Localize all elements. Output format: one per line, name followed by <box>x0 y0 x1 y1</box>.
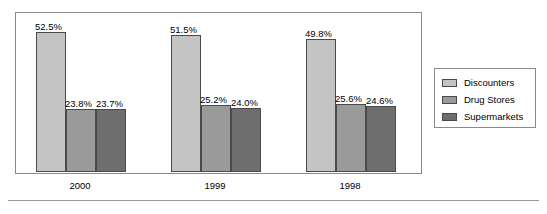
legend-item-label: Drug Stores <box>464 95 515 105</box>
x-axis-label-2000: 2000 <box>35 181 125 191</box>
x-axis-label-1999: 1999 <box>170 181 260 191</box>
bar-value-label: 25.2% <box>200 95 227 105</box>
legend-item-drug-stores[interactable]: Drug Stores <box>442 92 535 108</box>
bar-value-label: 49.8% <box>305 29 332 39</box>
chart-plot-frame: 52.5% 23.8% 23.7% 51.5% 25.2% 24.0% <box>15 12 422 174</box>
legend-item-label: Supermarkets <box>464 112 523 122</box>
bar-value-label: 52.5% <box>35 22 62 32</box>
bar-group-1999: 51.5% 25.2% 24.0% <box>171 13 261 172</box>
bar-value-label: 24.0% <box>231 98 258 108</box>
bar-discounters-1998[interactable]: 49.8% <box>306 39 336 172</box>
bar-discounters-2000[interactable]: 52.5% <box>36 32 66 172</box>
bar-drug-stores-1998[interactable]: 25.6% <box>336 104 366 172</box>
bar-group-1998: 49.8% 25.6% 24.6% <box>306 13 396 172</box>
bar-value-label: 24.6% <box>366 96 393 106</box>
bar-drug-stores-1999[interactable]: 25.2% <box>201 105 231 172</box>
chart-legend: Discounters Drug Stores Supermarkets <box>434 68 536 128</box>
bar-discounters-1999[interactable]: 51.5% <box>171 35 201 172</box>
plot-area: 52.5% 23.8% 23.7% 51.5% 25.2% 24.0% <box>16 13 421 173</box>
x-axis-label-1998: 1998 <box>305 181 395 191</box>
bar-supermarkets-1998[interactable]: 24.6% <box>366 106 396 172</box>
legend-item-label: Discounters <box>464 78 514 88</box>
legend-swatch-icon <box>442 113 457 121</box>
bar-value-label: 23.7% <box>96 99 123 109</box>
legend-item-supermarkets[interactable]: Supermarkets <box>442 109 535 125</box>
bar-value-label: 25.6% <box>335 94 362 104</box>
bar-supermarkets-1999[interactable]: 24.0% <box>231 108 261 172</box>
legend-swatch-icon <box>442 96 457 104</box>
footer-divider <box>8 200 539 201</box>
legend-swatch-icon <box>442 79 457 87</box>
legend-item-discounters[interactable]: Discounters <box>442 75 535 91</box>
bar-supermarkets-2000[interactable]: 23.7% <box>96 109 126 172</box>
bar-group-2000: 52.5% 23.8% 23.7% <box>36 13 126 172</box>
bar-drug-stores-2000[interactable]: 23.8% <box>66 109 96 172</box>
bar-value-label: 23.8% <box>65 99 92 109</box>
bar-value-label: 51.5% <box>170 25 197 35</box>
